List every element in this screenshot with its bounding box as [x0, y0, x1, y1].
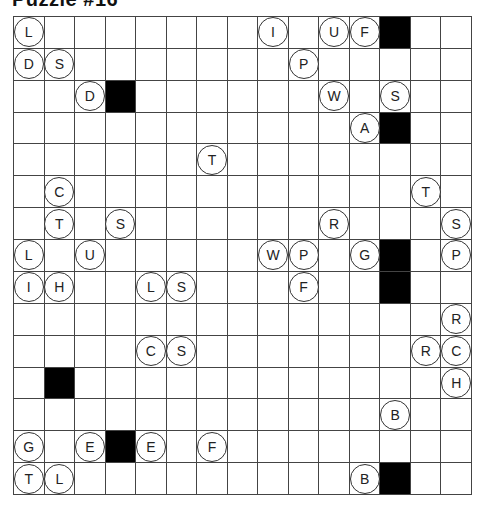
- grid-cell[interactable]: [441, 49, 472, 81]
- grid-cell[interactable]: [380, 49, 411, 81]
- grid-cell[interactable]: [380, 304, 411, 336]
- grid-cell[interactable]: [350, 272, 381, 304]
- grid-cell[interactable]: I: [258, 17, 289, 49]
- grid-cell[interactable]: [167, 304, 198, 336]
- grid-cell[interactable]: [228, 368, 259, 400]
- grid-cell[interactable]: [319, 240, 350, 272]
- grid-cell[interactable]: [258, 431, 289, 463]
- grid-cell[interactable]: [167, 113, 198, 145]
- grid-cell[interactable]: [106, 144, 137, 176]
- grid-cell[interactable]: H: [441, 368, 472, 400]
- grid-cell[interactable]: [258, 463, 289, 495]
- grid-cell[interactable]: [289, 463, 320, 495]
- grid-cell[interactable]: [75, 17, 106, 49]
- grid-cell[interactable]: [75, 272, 106, 304]
- grid-cell[interactable]: D: [75, 81, 106, 113]
- grid-cell[interactable]: [45, 399, 76, 431]
- grid-cell[interactable]: [289, 336, 320, 368]
- grid-cell[interactable]: [197, 272, 228, 304]
- grid-cell[interactable]: P: [441, 240, 472, 272]
- grid-cell[interactable]: [258, 399, 289, 431]
- grid-cell[interactable]: [441, 272, 472, 304]
- grid-cell[interactable]: [289, 144, 320, 176]
- grid-cell[interactable]: G: [350, 240, 381, 272]
- grid-cell[interactable]: [75, 144, 106, 176]
- grid-cell[interactable]: [441, 113, 472, 145]
- grid-cell[interactable]: [258, 368, 289, 400]
- grid-cell[interactable]: [106, 113, 137, 145]
- grid-cell[interactable]: [380, 176, 411, 208]
- grid-cell[interactable]: [411, 463, 442, 495]
- grid-cell[interactable]: [289, 17, 320, 49]
- grid-cell[interactable]: [228, 272, 259, 304]
- grid-cell[interactable]: [167, 399, 198, 431]
- grid-cell[interactable]: [228, 176, 259, 208]
- grid-cell[interactable]: T: [197, 144, 228, 176]
- grid-cell[interactable]: [319, 304, 350, 336]
- grid-cell[interactable]: [136, 49, 167, 81]
- grid-cell[interactable]: [136, 240, 167, 272]
- grid-cell[interactable]: [197, 240, 228, 272]
- grid-cell[interactable]: [14, 81, 45, 113]
- grid-cell[interactable]: [228, 336, 259, 368]
- grid-cell[interactable]: [411, 144, 442, 176]
- grid-cell[interactable]: [228, 463, 259, 495]
- grid-cell[interactable]: F: [350, 17, 381, 49]
- grid-cell[interactable]: [289, 431, 320, 463]
- grid-cell[interactable]: P: [289, 49, 320, 81]
- grid-cell[interactable]: [411, 240, 442, 272]
- grid-cell[interactable]: [228, 208, 259, 240]
- grid-cell[interactable]: [319, 272, 350, 304]
- grid-cell[interactable]: [411, 431, 442, 463]
- grid-cell[interactable]: [319, 336, 350, 368]
- grid-cell[interactable]: R: [319, 208, 350, 240]
- grid-cell[interactable]: [289, 176, 320, 208]
- grid-cell[interactable]: [350, 208, 381, 240]
- grid-cell[interactable]: [289, 208, 320, 240]
- grid-cell[interactable]: [258, 272, 289, 304]
- grid-cell[interactable]: [45, 336, 76, 368]
- grid-cell[interactable]: [441, 17, 472, 49]
- grid-cell[interactable]: [441, 463, 472, 495]
- grid-cell[interactable]: [167, 368, 198, 400]
- grid-cell[interactable]: [258, 81, 289, 113]
- grid-cell[interactable]: [411, 17, 442, 49]
- grid-cell[interactable]: [136, 113, 167, 145]
- grid-cell[interactable]: [14, 144, 45, 176]
- grid-cell[interactable]: [441, 431, 472, 463]
- grid-cell[interactable]: [197, 336, 228, 368]
- grid-cell[interactable]: [197, 304, 228, 336]
- grid-cell[interactable]: L: [136, 272, 167, 304]
- grid-cell[interactable]: W: [319, 81, 350, 113]
- grid-cell[interactable]: [167, 81, 198, 113]
- grid-cell[interactable]: [75, 176, 106, 208]
- grid-cell[interactable]: S: [441, 208, 472, 240]
- grid-cell[interactable]: [319, 463, 350, 495]
- grid-cell[interactable]: [441, 176, 472, 208]
- grid-cell[interactable]: R: [441, 304, 472, 336]
- grid-cell[interactable]: [350, 81, 381, 113]
- grid-cell[interactable]: [441, 144, 472, 176]
- grid-cell[interactable]: C: [45, 176, 76, 208]
- grid-cell[interactable]: [228, 431, 259, 463]
- grid-cell[interactable]: [350, 368, 381, 400]
- grid-cell[interactable]: [350, 144, 381, 176]
- grid-cell[interactable]: [319, 113, 350, 145]
- grid-cell[interactable]: [197, 81, 228, 113]
- grid-cell[interactable]: [106, 463, 137, 495]
- grid-cell[interactable]: [441, 399, 472, 431]
- grid-cell[interactable]: [289, 304, 320, 336]
- grid-cell[interactable]: C: [136, 336, 167, 368]
- grid-cell[interactable]: [197, 208, 228, 240]
- grid-cell[interactable]: [106, 399, 137, 431]
- grid-cell[interactable]: [75, 399, 106, 431]
- grid-cell[interactable]: [45, 431, 76, 463]
- grid-cell[interactable]: [289, 113, 320, 145]
- grid-cell[interactable]: [167, 240, 198, 272]
- grid-cell[interactable]: [350, 399, 381, 431]
- grid-cell[interactable]: [45, 144, 76, 176]
- grid-cell[interactable]: [45, 17, 76, 49]
- grid-cell[interactable]: [167, 431, 198, 463]
- grid-cell[interactable]: [197, 176, 228, 208]
- grid-cell[interactable]: [319, 368, 350, 400]
